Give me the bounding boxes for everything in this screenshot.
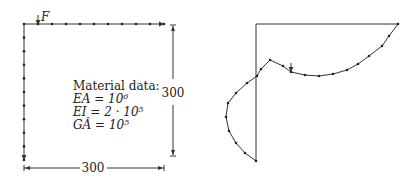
beam-node <box>93 23 96 26</box>
deformed-node <box>225 116 228 119</box>
column-node <box>23 118 26 121</box>
deformed-node <box>269 59 272 62</box>
deformed-node <box>235 142 238 145</box>
beam-node <box>121 23 124 26</box>
deformed-node <box>235 92 238 95</box>
beam-node <box>135 23 138 26</box>
deformed-node <box>282 65 285 68</box>
deformed-node <box>304 74 307 77</box>
deformed-node <box>346 69 349 72</box>
height-dimension-label: 300 <box>162 86 185 100</box>
deformed-node <box>228 130 231 133</box>
column-node <box>23 50 26 53</box>
column-node <box>23 91 26 94</box>
beam-node <box>163 23 166 26</box>
deformed-node <box>255 160 258 163</box>
deformed-frame <box>225 23 400 163</box>
beam-node <box>107 23 110 26</box>
material-ga: GÂ = 10⁵ <box>73 119 129 132</box>
deformed-node <box>381 45 384 48</box>
column-node <box>23 132 26 135</box>
deformed-node <box>256 75 259 78</box>
column-node <box>23 64 26 67</box>
deformed-node <box>332 73 335 76</box>
column-node <box>23 77 26 80</box>
beam-node <box>51 23 54 26</box>
beam-node <box>149 23 152 26</box>
deformed-node <box>260 68 263 71</box>
column-node <box>23 104 26 107</box>
column-node <box>23 36 26 39</box>
deformed-node <box>227 102 230 105</box>
deformed-node <box>246 82 249 85</box>
column-node <box>23 145 26 148</box>
column-node <box>23 159 26 162</box>
deformed-curve <box>226 24 398 161</box>
force-label: F <box>40 10 50 24</box>
beam-node <box>79 23 82 26</box>
beam-node <box>65 23 68 26</box>
deformed-node <box>388 35 391 38</box>
deformed-node <box>357 63 360 66</box>
deformed-node <box>397 23 400 26</box>
deformed-node <box>318 75 321 78</box>
deformed-node <box>368 55 371 58</box>
deformed-node <box>244 152 247 155</box>
width-dimension-label: 300 <box>82 161 105 175</box>
beam-node <box>23 23 26 26</box>
frame-diagram: F 300 300 <box>0 0 416 179</box>
